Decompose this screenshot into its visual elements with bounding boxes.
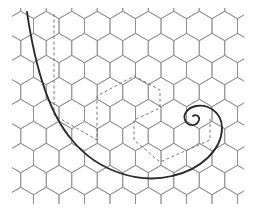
hexagon-cell	[0, 99, 8, 128]
hexagon-cell	[250, 209, 254, 213]
hexagon-cell	[34, 187, 60, 213]
hexagon-cell	[212, 99, 238, 128]
hexagon-cell	[0, 0, 21, 19]
hexagon-cell	[21, 165, 46, 194]
hexagon-cell	[0, 55, 8, 84]
dashed-path	[54, 14, 210, 162]
hexagon-cell	[8, 187, 34, 213]
hexagon-cell	[72, 33, 97, 62]
hexagon-cell	[225, 121, 250, 150]
hexagon-cell	[238, 55, 255, 84]
hexagon-cell	[161, 187, 187, 213]
hexagon-cell	[46, 209, 71, 213]
hexagon-cell	[148, 121, 173, 150]
hexagon-cell	[136, 187, 162, 213]
hexagon-cell	[199, 165, 224, 194]
hexagon-cell	[123, 209, 148, 213]
hexagon-cell	[97, 209, 122, 213]
hexagon-cell	[85, 187, 111, 213]
hexagon-cell	[8, 55, 34, 84]
hexagon-cell	[0, 11, 8, 40]
hexagon-cell	[238, 99, 255, 128]
hexagon-cell	[148, 77, 173, 106]
hexagon-cell	[8, 99, 34, 128]
hexagon-cell	[199, 33, 224, 62]
hexagon-cell	[238, 143, 255, 172]
hexagon-cell	[174, 121, 199, 150]
hexagon-cell	[136, 99, 162, 128]
hexagon-cell	[174, 77, 199, 106]
hexagon-cell	[212, 55, 238, 84]
hexagon-cell	[250, 0, 254, 19]
hexagon-cell	[46, 165, 71, 194]
hexagon-cell	[161, 11, 187, 40]
hexagon-cell	[174, 0, 199, 19]
hexagon-cell	[123, 0, 148, 19]
hexagon-cell	[225, 165, 250, 194]
hexagon-cell	[97, 33, 122, 62]
hexagon-cell	[148, 165, 173, 194]
hexagon-cell	[161, 99, 187, 128]
hexagon-cell	[85, 11, 111, 40]
hexagon-cell	[0, 77, 21, 106]
hexagon-cell	[212, 11, 238, 40]
hexagon-cell	[34, 11, 60, 40]
hexagon-cell	[85, 55, 111, 84]
hexagon-cell	[212, 187, 238, 213]
hexagon-cell	[136, 143, 162, 172]
hexagon-cell	[97, 121, 122, 150]
hexagon-cell	[187, 11, 213, 40]
hexagon-cell	[110, 99, 136, 128]
hexagon-cell	[225, 77, 250, 106]
hexagon-cell	[72, 77, 97, 106]
hexagon-cell	[8, 143, 34, 172]
hexagon-cell	[59, 99, 85, 128]
hexagon-cell	[72, 121, 97, 150]
hexagon-cell	[148, 209, 173, 213]
hexagon-cell	[250, 77, 254, 106]
hexagon-cell	[148, 33, 173, 62]
hexagon-cell	[250, 33, 254, 62]
hexagon-cell	[97, 77, 122, 106]
hexagon-cell	[72, 209, 97, 213]
hexagon-cell	[238, 11, 255, 40]
hexagon-cell	[59, 11, 85, 40]
hexagon-cell	[0, 209, 21, 213]
hexagon-cell	[46, 33, 71, 62]
hexagon-cell	[34, 55, 60, 84]
hexagon-cell	[21, 209, 46, 213]
hexagon-cell	[148, 0, 173, 19]
hexagon-cell	[123, 33, 148, 62]
hexagon-cell	[187, 187, 213, 213]
hexagon-cell	[136, 11, 162, 40]
hexagon-cell	[59, 143, 85, 172]
hexagon-cell	[238, 187, 255, 213]
hexagon-cell	[0, 121, 21, 150]
hexagon-cell	[225, 209, 250, 213]
hexagon-cell	[136, 55, 162, 84]
hexagon-cell	[174, 165, 199, 194]
hexagon-cell	[187, 55, 213, 84]
hexagon-cell	[161, 55, 187, 84]
hexagon-cell	[0, 187, 8, 213]
hexagon-cell	[59, 55, 85, 84]
hexagon-cell	[174, 209, 199, 213]
hexagon-cell	[72, 0, 97, 19]
hexagon-cell	[0, 143, 8, 172]
hexagon-cell	[46, 0, 71, 19]
hexagon-cell	[34, 143, 60, 172]
hexagon-cell	[161, 143, 187, 172]
hexagon-cell	[225, 33, 250, 62]
hexagon-cell	[59, 187, 85, 213]
hexagon-cell	[21, 0, 46, 19]
hexagon-cell	[174, 33, 199, 62]
hexagon-cell	[110, 187, 136, 213]
hexagon-cell	[123, 121, 148, 150]
hexagon-cell	[123, 165, 148, 194]
hexagon-cell	[21, 121, 46, 150]
hexagon-cell	[199, 209, 224, 213]
diagram-canvas	[0, 0, 254, 213]
hexagon-grid	[0, 0, 254, 213]
hexagon-cell	[0, 33, 21, 62]
hexagon-cell	[199, 77, 224, 106]
